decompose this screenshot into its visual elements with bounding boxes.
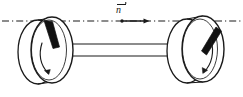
right-disc	[167, 16, 224, 83]
axis-direction-arrowhead	[144, 18, 150, 23]
vector-overbar-arrowhead	[125, 2, 127, 4]
left-disc	[18, 17, 73, 84]
dumbbell-rotation-diagram	[0, 0, 243, 97]
figure-container: n	[0, 0, 243, 97]
axis-vector-label: n	[116, 5, 121, 15]
axis-direction-marker	[120, 18, 149, 23]
